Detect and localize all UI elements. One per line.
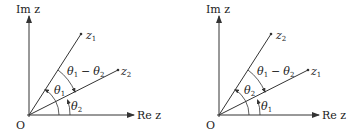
imag-axis-label: Im z [206, 3, 230, 16]
real-axis-label: Re z [322, 109, 346, 122]
label-z2: z2 [275, 29, 286, 43]
label-theta-difference: θ1−θ2 [67, 65, 104, 79]
point-z1 [307, 69, 310, 72]
label-theta-large: θ1 [54, 84, 65, 98]
real-axis-label: Re z [137, 109, 161, 122]
label-theta-difference: θ1−θ2 [257, 65, 294, 79]
point-z2 [117, 69, 120, 72]
arc-theta1 [258, 100, 261, 115]
label-z2: z2 [120, 65, 131, 79]
arc-theta2 [68, 100, 71, 115]
imag-axis-label: Im z [16, 3, 40, 16]
origin-label: O [16, 119, 25, 132]
origin-label: O [206, 119, 215, 132]
label-theta-small: θ1 [261, 100, 272, 114]
label-z1: z1 [310, 65, 321, 79]
point-z1 [80, 33, 83, 36]
label-z1: z1 [85, 29, 96, 43]
figure-right: Im z Re z O z2 z1 θ2 θ1 θ1−θ2 [206, 3, 346, 132]
label-theta-large: θ2 [244, 84, 255, 98]
label-theta-small: θ2 [71, 100, 82, 114]
complex-plane-diagrams: Im z Re z O z1 z2 θ1 θ2 θ1−θ2 Im z Re z … [0, 0, 359, 133]
point-z2 [270, 33, 273, 36]
figure-left: Im z Re z O z1 z2 θ1 θ2 θ1−θ2 [16, 3, 161, 132]
